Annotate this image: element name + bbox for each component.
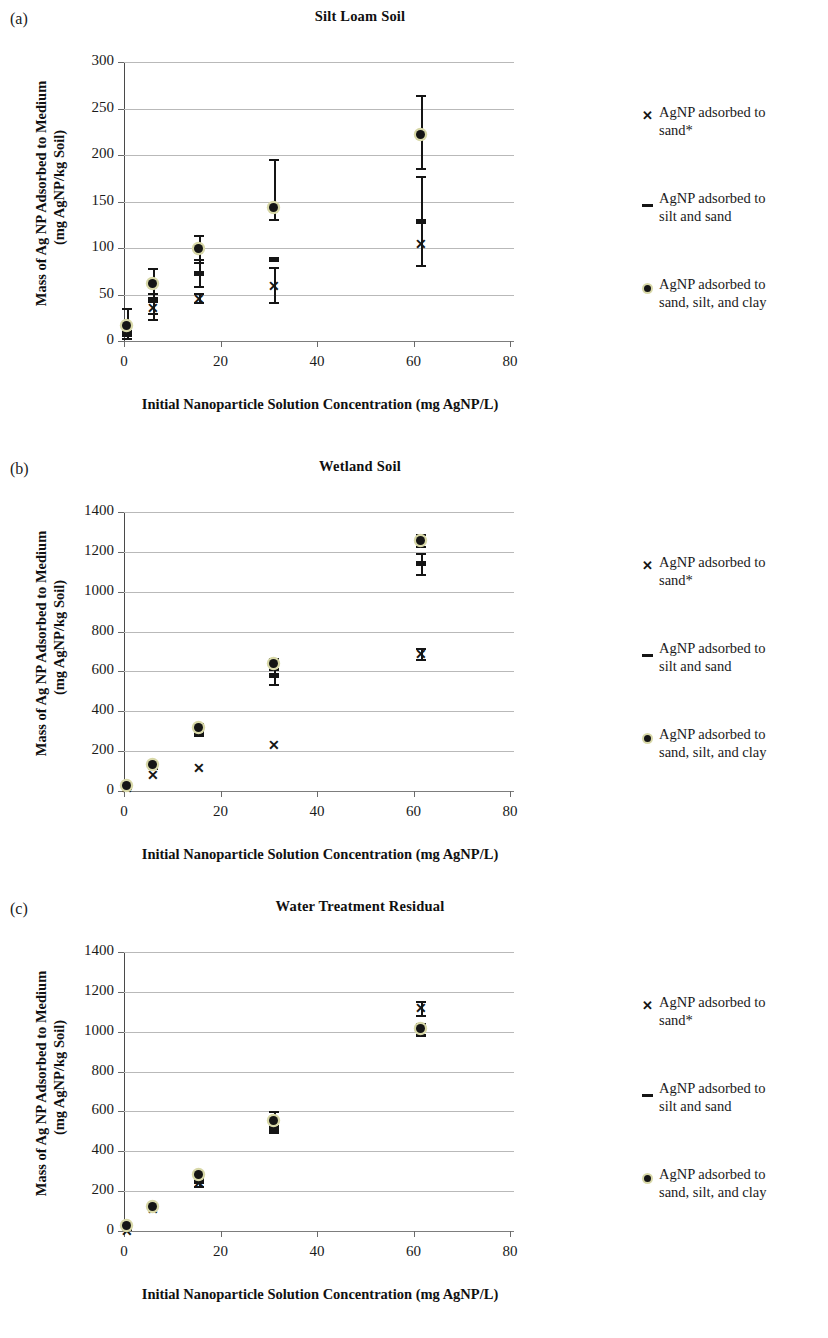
legend-label: AgNP adsorbed to sand* bbox=[659, 554, 766, 589]
panel-title: Wetland Soil bbox=[150, 458, 570, 475]
y-tick-mark bbox=[118, 711, 124, 712]
error-bar-cap bbox=[416, 553, 426, 555]
x-tick-label: 20 bbox=[191, 1243, 251, 1260]
legend-label: AgNP adsorbed to sand, silt, and clay bbox=[659, 276, 767, 311]
panel-letter: (b) bbox=[10, 460, 29, 478]
error-bar-cap bbox=[269, 267, 279, 269]
error-bar-cap bbox=[416, 1034, 426, 1036]
x-axis-title: Initial Nanoparticle Solution Concentrat… bbox=[60, 846, 580, 863]
x-tick-mark bbox=[317, 791, 318, 797]
x-axis-line bbox=[124, 791, 514, 792]
plot-area bbox=[124, 512, 510, 791]
y-axis-title: Mass of Ag NP Adsorbed to Medium bbox=[32, 924, 50, 1243]
x-tick-mark bbox=[221, 791, 222, 797]
x-tick-label: 20 bbox=[191, 803, 251, 820]
y-tick-mark bbox=[118, 202, 124, 203]
error-bar-cap bbox=[269, 302, 279, 304]
gridline bbox=[124, 1151, 514, 1152]
data-point-circle bbox=[269, 659, 278, 668]
legend-row: ✕AgNP adsorbed to sand* bbox=[640, 104, 825, 139]
x-tick-label: 20 bbox=[191, 353, 251, 370]
data-point-circle bbox=[194, 1170, 203, 1179]
x-tick-label: 80 bbox=[480, 803, 540, 820]
data-point-x: ✕ bbox=[146, 768, 160, 782]
y-tick-mark bbox=[118, 552, 124, 553]
panel-title: Silt Loam Soil bbox=[150, 8, 570, 25]
error-bar-cap bbox=[194, 286, 204, 288]
x-tick-label: 0 bbox=[94, 1243, 154, 1260]
x-axis-line bbox=[124, 1231, 514, 1232]
y-tick-mark bbox=[118, 632, 124, 633]
gridline bbox=[124, 632, 514, 633]
data-point-circle bbox=[194, 723, 203, 732]
y-tick-mark bbox=[118, 1151, 124, 1152]
gridline bbox=[124, 671, 514, 672]
x-axis-title: Initial Nanoparticle Solution Concentrat… bbox=[60, 396, 580, 413]
data-point-x: ✕ bbox=[192, 292, 206, 306]
x-tick-label: 40 bbox=[287, 803, 347, 820]
legend-row: AgNP adsorbed to sand, silt, and clay bbox=[640, 276, 825, 311]
legend-row: ✕AgNP adsorbed to sand* bbox=[640, 994, 825, 1029]
error-bar-cap bbox=[416, 168, 426, 170]
x-tick-mark bbox=[414, 341, 415, 347]
data-point-x: ✕ bbox=[146, 301, 160, 315]
data-point-square bbox=[269, 673, 279, 678]
error-bar-cap bbox=[194, 235, 204, 237]
y-axis-title: Mass of Ag NP Adsorbed to Medium bbox=[32, 484, 50, 803]
panel-title: Water Treatment Residual bbox=[150, 898, 570, 915]
error-bar-cap bbox=[416, 546, 426, 548]
data-point-x: ✕ bbox=[414, 647, 428, 661]
legend-label: AgNP adsorbed to silt and sand bbox=[659, 190, 766, 225]
y-tick-mark bbox=[118, 1111, 124, 1112]
y-tick-mark bbox=[118, 295, 124, 296]
y-tick-mark bbox=[118, 155, 124, 156]
gridline bbox=[124, 295, 514, 296]
y-tick-mark bbox=[118, 671, 124, 672]
y-tick-mark bbox=[118, 109, 124, 110]
data-point-square bbox=[416, 561, 426, 566]
error-bar-cap bbox=[269, 1127, 279, 1129]
legend-row: ✕AgNP adsorbed to sand* bbox=[640, 554, 825, 589]
panel-letter: (c) bbox=[10, 900, 28, 918]
data-point-x: ✕ bbox=[267, 738, 281, 752]
x-tick-mark bbox=[510, 341, 511, 347]
chart-panel-3: (c)Water Treatment Residual0200400600800… bbox=[0, 890, 828, 1336]
gridline bbox=[124, 248, 514, 249]
gridline bbox=[124, 202, 514, 203]
dot-marker-icon bbox=[640, 726, 654, 746]
gridline bbox=[124, 552, 514, 553]
gridline bbox=[124, 711, 514, 712]
y-tick-mark bbox=[118, 592, 124, 593]
x-tick-mark bbox=[124, 341, 125, 347]
error-bar-cap bbox=[194, 735, 204, 737]
gridline bbox=[124, 952, 514, 953]
x-tick-mark bbox=[414, 791, 415, 797]
legend-row: AgNP adsorbed to silt and sand bbox=[640, 1080, 825, 1115]
error-bar-cap bbox=[269, 684, 279, 686]
data-point-circle bbox=[269, 203, 278, 212]
legend-label: AgNP adsorbed to silt and sand bbox=[659, 1080, 766, 1115]
x-tick-label: 40 bbox=[287, 353, 347, 370]
legend-label: AgNP adsorbed to silt and sand bbox=[659, 640, 766, 675]
data-point-circle bbox=[122, 1221, 131, 1230]
plot-area bbox=[124, 952, 510, 1231]
legend-label: AgNP adsorbed to sand* bbox=[659, 994, 766, 1029]
gridline bbox=[124, 512, 514, 513]
data-point-square bbox=[194, 271, 204, 276]
gridline bbox=[124, 992, 514, 993]
y-axis-title-units: (mg AgNP/kg Soil) bbox=[50, 28, 68, 347]
gridline bbox=[124, 1032, 514, 1033]
panel-letter: (a) bbox=[10, 10, 28, 28]
error-bar-cap bbox=[148, 297, 158, 299]
x-axis-line bbox=[124, 341, 514, 342]
x-marker-icon: ✕ bbox=[640, 994, 654, 1014]
data-point-circle bbox=[269, 1116, 278, 1125]
gridline bbox=[124, 751, 514, 752]
error-bar-cap bbox=[269, 668, 279, 670]
x-marker-icon: ✕ bbox=[640, 104, 654, 124]
error-bar-cap bbox=[148, 319, 158, 321]
error-bar-cap bbox=[269, 1111, 279, 1113]
gridline bbox=[124, 1072, 514, 1073]
y-tick-mark bbox=[118, 751, 124, 752]
legend-row: AgNP adsorbed to silt and sand bbox=[640, 190, 825, 225]
